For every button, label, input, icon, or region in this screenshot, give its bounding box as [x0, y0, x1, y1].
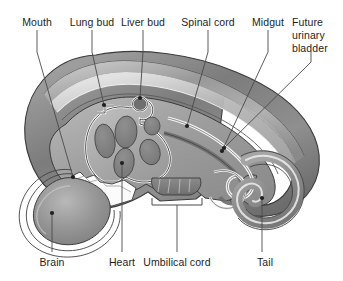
label-tail: Tail	[257, 256, 273, 268]
label-brain: Brain	[39, 256, 64, 268]
dot-heart	[120, 161, 124, 165]
embryo-diagram-figure: Mouth Lung bud Liver bud Spinal cord Mid…	[0, 0, 343, 281]
label-future-urinary-bladder-line2: urinary	[292, 29, 325, 41]
label-lung-bud: Lung bud	[70, 16, 115, 28]
dot-liver-bud	[138, 96, 142, 100]
heart-chamber-lobe	[144, 117, 160, 135]
label-mouth: Mouth	[22, 16, 52, 28]
label-midgut: Midgut	[252, 16, 284, 28]
label-liver-bud: Liver bud	[121, 16, 165, 28]
label-spinal-cord: Spinal cord	[181, 16, 235, 28]
umbilical-cord-stub	[152, 178, 201, 195]
brain-vesicle	[33, 178, 110, 245]
label-future-urinary-bladder-line3: bladder	[292, 42, 328, 54]
label-umbilical-cord: Umbilical cord	[143, 256, 210, 268]
dot-brain	[50, 211, 54, 215]
brain-mass	[33, 178, 110, 245]
dot-spinal-cord	[185, 124, 189, 128]
label-future-urinary-bladder-line1: Future	[292, 16, 323, 28]
dot-lung-bud	[102, 103, 106, 107]
dot-future-urinary-bladder	[222, 146, 226, 150]
dot-mouth	[71, 175, 75, 179]
dot-tail	[260, 196, 264, 200]
label-heart: Heart	[109, 256, 135, 268]
